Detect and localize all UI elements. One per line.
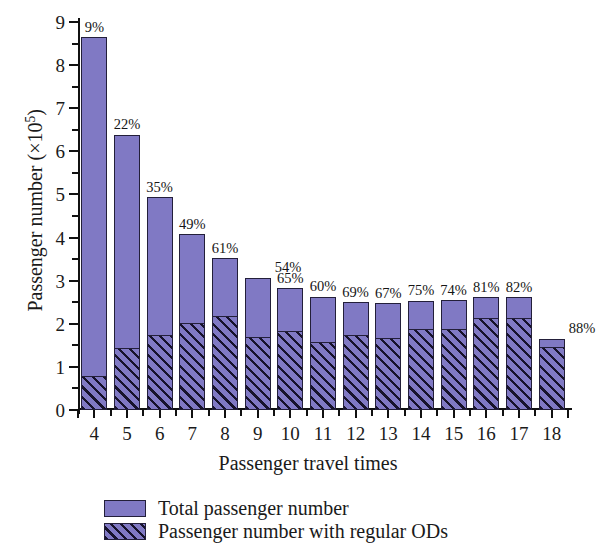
bar-group: 65% — [277, 22, 303, 410]
x-axis-minor-tick — [208, 410, 210, 416]
x-axis-tick-label: 16 — [477, 424, 496, 443]
y-axis-tick-label: 0 — [56, 401, 66, 420]
y-axis-minor-tick — [72, 387, 78, 389]
x-axis-tick — [518, 410, 520, 418]
hatched-purple-swatch — [104, 523, 146, 540]
x-axis-tick-label: 11 — [314, 424, 332, 443]
x-axis-tick-label: 12 — [346, 424, 365, 443]
y-axis-tick — [69, 107, 78, 109]
y-axis-minor-tick — [72, 215, 78, 217]
bar-group: 82% — [506, 22, 532, 410]
x-axis-tick — [257, 410, 259, 418]
x-axis-tick-label: 18 — [542, 424, 561, 443]
y-axis-tick-label: 4 — [56, 228, 66, 247]
bar-regular-od-passenger-number — [114, 348, 140, 411]
bar-regular-od-passenger-number — [473, 318, 499, 410]
bar-regular-od-passenger-number — [310, 342, 336, 410]
x-axis-tick — [387, 410, 389, 418]
x-axis-tick-label: 6 — [155, 424, 165, 443]
bar-total-passenger-number — [81, 37, 107, 410]
bar-percentage-label: 9% — [85, 20, 104, 35]
y-axis-tick-label: 1 — [56, 357, 66, 376]
bar-group: 35% — [147, 22, 173, 410]
x-axis-tick — [93, 410, 95, 418]
x-axis-minor-tick — [240, 410, 242, 416]
y-axis-minor-tick — [72, 129, 78, 131]
x-axis-tick-label: 4 — [90, 424, 100, 443]
y-axis-tick — [69, 323, 78, 325]
x-axis-minor-tick — [338, 410, 340, 416]
x-axis-minor-tick — [175, 410, 177, 416]
x-axis-minor-tick — [436, 410, 438, 416]
x-axis-tick — [159, 410, 161, 418]
bar-regular-od-passenger-number — [506, 318, 532, 410]
x-axis-tick-label: 8 — [220, 424, 230, 443]
bar-regular-od-passenger-number — [408, 329, 434, 410]
x-axis-minor-tick — [469, 410, 471, 416]
bar-percentage-label: 49% — [179, 217, 206, 232]
x-axis-tick — [355, 410, 357, 418]
y-axis-title-close: ) — [24, 109, 46, 116]
bar-percentage-label: 61% — [212, 241, 239, 256]
bar-regular-od-passenger-number — [212, 316, 238, 410]
y-axis-tick — [69, 21, 78, 23]
x-axis-tick-label: 17 — [510, 424, 529, 443]
bar-regular-od-passenger-number — [147, 335, 173, 410]
x-axis-minor-tick — [371, 410, 373, 416]
y-axis-tick — [69, 64, 78, 66]
x-axis-title: Passenger travel times — [0, 452, 616, 475]
y-axis-minor-tick — [72, 43, 78, 45]
plot-area: 01234567899%422%535%649%761%854%965%1060… — [78, 22, 568, 410]
y-axis-tick-label: 2 — [56, 314, 66, 333]
bar-percentage-label: 35% — [146, 180, 173, 195]
bar-percentage-label: 22% — [114, 117, 141, 132]
y-axis-tick-label: 8 — [56, 56, 66, 75]
legend-item: Total passenger number — [104, 498, 448, 518]
y-axis-minor-tick — [72, 258, 78, 260]
x-axis-tick — [420, 410, 422, 418]
bar-group: 69% — [343, 22, 369, 410]
x-axis-tick-label: 14 — [412, 424, 431, 443]
bar-group: 74% — [441, 22, 467, 410]
y-axis-title: Passenger number (×105) — [23, 20, 48, 400]
bar-chart-figure: 01234567899%422%535%649%761%854%965%1060… — [0, 0, 616, 550]
bar-percentage-label: 82% — [506, 280, 533, 295]
bar-percentage-label: 75% — [408, 283, 435, 298]
bar-group: 22% — [114, 22, 140, 410]
y-axis-tick-label: 3 — [56, 271, 66, 290]
x-axis-minor-tick — [110, 410, 112, 416]
bar-percentage-label: 69% — [342, 285, 369, 300]
x-axis-tick — [485, 410, 487, 418]
legend-item-label: Passenger number with regular ODs — [158, 521, 448, 541]
x-axis-tick — [289, 410, 291, 418]
y-axis-minor-tick — [72, 344, 78, 346]
bar-regular-od-passenger-number — [179, 323, 205, 410]
x-axis-minor-tick — [142, 410, 144, 416]
y-axis-tick-label: 6 — [56, 142, 66, 161]
x-axis-tick-label: 13 — [379, 424, 398, 443]
y-axis-tick-label: 9 — [56, 13, 66, 32]
bar-percentage-label: 67% — [375, 286, 402, 301]
legend-item: Passenger number with regular ODs — [104, 521, 448, 541]
y-axis-minor-tick — [72, 172, 78, 174]
x-axis-tick — [77, 410, 79, 418]
bar-percentage-label: 88% — [569, 321, 596, 336]
bar-percentage-label: 65% — [277, 271, 304, 286]
x-axis-tick — [551, 410, 553, 418]
y-axis-tick — [69, 280, 78, 282]
bar-percentage-label: 60% — [310, 279, 337, 294]
bar-group: 49% — [179, 22, 205, 410]
y-axis-tick-label: 7 — [56, 99, 66, 118]
bar-group: 60% — [310, 22, 336, 410]
bar-group: 75% — [408, 22, 434, 410]
x-axis-tick-label: 15 — [444, 424, 463, 443]
bar-regular-od-passenger-number — [539, 347, 565, 410]
x-axis-tick — [453, 410, 455, 418]
x-axis-minor-tick — [306, 410, 308, 416]
y-axis-title-base: Passenger number (×10 — [24, 123, 46, 312]
x-axis-minor-tick — [273, 410, 275, 416]
bar-percentage-label: 81% — [473, 280, 500, 295]
y-axis-minor-tick — [72, 86, 78, 88]
bar-regular-od-passenger-number — [81, 376, 107, 410]
x-axis-tick-label: 9 — [253, 424, 263, 443]
